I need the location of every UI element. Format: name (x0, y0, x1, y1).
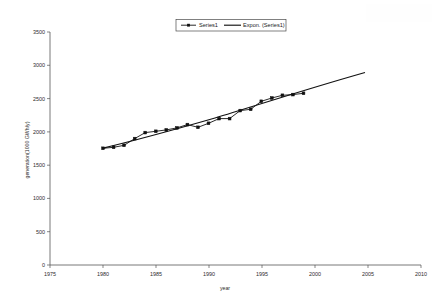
y-tick-labels: 3500 3000 2500 2000 1500 1000 500 0 (33, 29, 45, 268)
chart-plot: 3500 3000 2500 2000 1500 1000 500 0 1975… (0, 0, 440, 303)
x-tick-label: 1980 (97, 271, 109, 277)
x-tick-labels: 1975 1980 1985 1990 1995 2000 2005 2010 (44, 271, 427, 277)
y-axis-ticks (47, 32, 50, 265)
exponential-trendline (103, 73, 365, 149)
x-axis-title: year (220, 285, 230, 291)
chart-container: 3500 3000 2500 2000 1500 1000 500 0 1975… (0, 0, 440, 303)
y-tick-label: 0 (42, 262, 45, 268)
x-tick-label: 1985 (150, 271, 162, 277)
x-tick-label: 1990 (203, 271, 215, 277)
x-tick-label: 2000 (309, 271, 321, 277)
y-tick-label: 500 (36, 229, 45, 235)
legend-series1-marker (187, 24, 190, 27)
legend-trend-label: Expon. (Series1) (243, 22, 285, 28)
y-tick-label: 1500 (33, 162, 45, 168)
y-tick-label: 3000 (33, 62, 45, 68)
chart-legend: Series1 Expon. (Series1) (176, 20, 286, 32)
y-tick-label: 2000 (33, 129, 45, 135)
y-axis-title: generation(1000 GWh/y) (24, 121, 30, 178)
y-tick-label: 2500 (33, 96, 45, 102)
y-tick-label: 3500 (33, 29, 45, 35)
x-tick-label: 2005 (362, 271, 374, 277)
legend-series1-label: Series1 (199, 22, 218, 28)
x-tick-label: 1995 (256, 271, 268, 277)
x-axis-ticks (50, 265, 421, 268)
x-tick-label: 1975 (44, 271, 56, 277)
y-tick-label: 1000 (33, 195, 45, 201)
x-tick-label: 2010 (415, 271, 427, 277)
